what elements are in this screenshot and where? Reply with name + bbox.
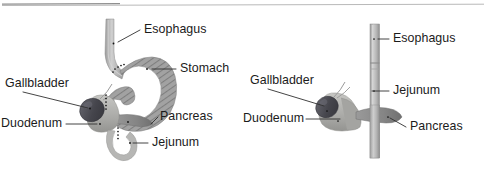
label-jejunum-left[interactable]: Jejunum — [129, 135, 199, 149]
left-panel-labels: Esophagus Stomach Gallbladder Duodenum — [1, 22, 229, 149]
jejunum-shape-left — [106, 130, 137, 161]
label-gallbladder-right-text: Gallbladder — [250, 73, 314, 87]
anatomy-illustration: Esophagus Stomach Gallbladder Duodenum — [0, 0, 486, 177]
label-esophagus-right[interactable]: Esophagus — [378, 31, 455, 45]
label-jejunum-right-text: Jejunum — [393, 83, 440, 97]
top-divider-rule — [2, 4, 484, 6]
conduit-overlap-right — [370, 105, 380, 158]
label-esophagus-right-text: Esophagus — [393, 31, 455, 45]
anatomy-figure: Esophagus Stomach Gallbladder Duodenum — [0, 0, 486, 177]
label-gallbladder-right[interactable]: Gallbladder — [250, 73, 324, 106]
label-pancreas-right[interactable]: Pancreas — [390, 118, 463, 133]
label-pancreas-left-text: Pancreas — [160, 109, 213, 123]
label-stomach-text: Stomach — [180, 61, 229, 75]
label-esophagus-left-text: Esophagus — [144, 22, 206, 36]
label-esophagus-left[interactable]: Esophagus — [113, 22, 207, 44]
label-gallbladder-left-text: Gallbladder — [5, 76, 69, 90]
label-pancreas-right-text: Pancreas — [410, 119, 463, 133]
label-gallbladder-left[interactable]: Gallbladder — [5, 76, 91, 109]
label-jejunum-left-text: Jejunum — [152, 135, 199, 149]
label-jejunum-right[interactable]: Jejunum — [372, 83, 440, 97]
label-duodenum-right-text: Duodenum — [243, 111, 304, 125]
label-duodenum-left-text: Duodenum — [1, 116, 62, 130]
